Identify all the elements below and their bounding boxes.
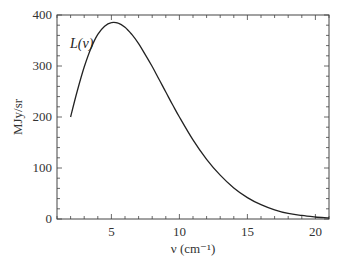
x-tick-label: 15: [241, 224, 254, 239]
y-tick-label: 0: [46, 211, 53, 226]
y-tick-label: 300: [33, 58, 53, 73]
series-line: [71, 22, 329, 218]
plot-frame: [57, 15, 329, 219]
y-axis-label: MJy/sr: [10, 98, 25, 135]
y-tick-label: 400: [33, 7, 53, 22]
x-tick-label: 10: [173, 224, 186, 239]
y-tick-label: 100: [33, 160, 53, 175]
x-tick-label: 20: [309, 224, 322, 239]
ticks: [57, 15, 329, 219]
x-axis-label: ν (cm⁻¹): [171, 241, 215, 256]
chart: 51015200100200300400 L(ν) ν (cm⁻¹) MJy/s…: [0, 0, 344, 265]
series-annotation: L(ν): [69, 36, 94, 52]
x-tick-label: 5: [108, 224, 115, 239]
y-tick-label: 200: [33, 109, 53, 124]
